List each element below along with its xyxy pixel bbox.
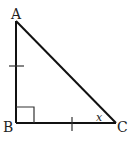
side-ac bbox=[16, 21, 116, 123]
vertex-label-b: B bbox=[3, 119, 13, 135]
right-angle-marker bbox=[16, 107, 34, 123]
angle-label-x: x bbox=[96, 111, 103, 124]
triangle-diagram: A B C x bbox=[0, 0, 134, 142]
vertex-label-c: C bbox=[117, 119, 128, 135]
vertex-label-a: A bbox=[10, 6, 22, 22]
